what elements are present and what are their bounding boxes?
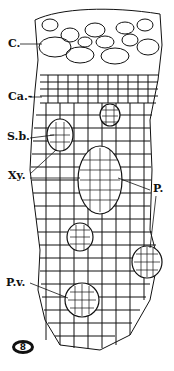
tissue-section-drawing	[0, 0, 174, 371]
label-phloem: P.	[153, 183, 163, 194]
label-xylem: Xy.	[8, 170, 26, 181]
figure-number-badge: 8	[12, 340, 34, 354]
leader-pv	[30, 283, 68, 298]
bundle-top	[100, 104, 120, 126]
label-cambium: Ca.-	[8, 91, 32, 102]
label-cortex: C.	[8, 38, 20, 49]
label-sieve-bundle: S.b.	[7, 131, 30, 142]
label-phloem-vessel: P.v.	[6, 277, 25, 288]
